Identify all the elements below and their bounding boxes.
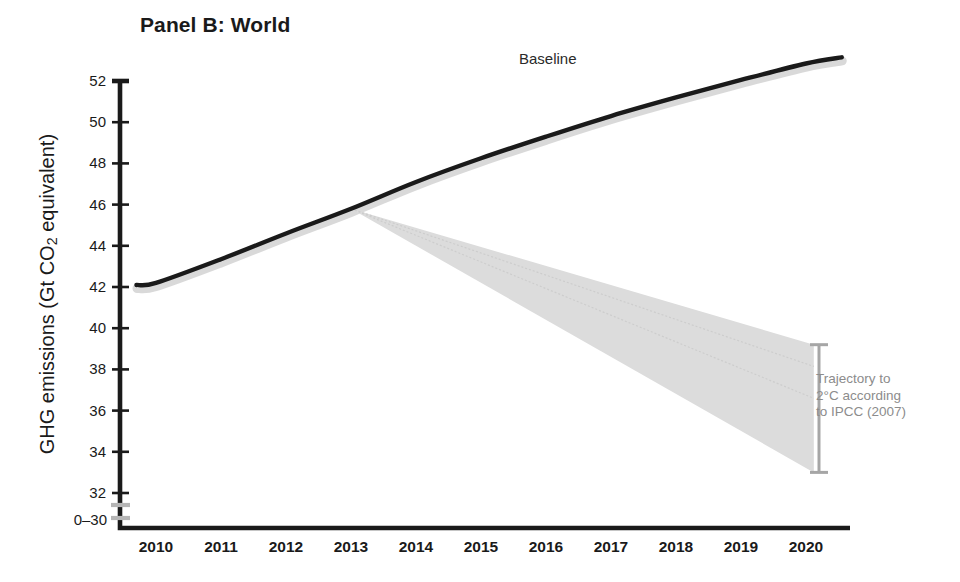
y-tick-label-40: 40 [62,319,106,336]
x-tick-label-2017: 2017 [576,538,646,556]
x-tick-label-2013: 2013 [316,538,386,556]
wedge-seam-upper [351,209,814,367]
y-tick-label-50: 50 [62,113,106,130]
trajectory-annotation-line-1: Trajectory to [816,371,906,388]
x-tick-label-2011: 2011 [186,538,256,556]
y-tick-label-32: 32 [62,484,106,501]
y-axis-break-label: 0–30 [55,511,107,528]
x-tick-label-2020: 2020 [771,538,841,556]
x-tick-label-2012: 2012 [251,538,321,556]
axes-group [111,81,850,528]
chart-plot-area [0,0,960,582]
y-tick-label-34: 34 [62,443,106,460]
y-tick-label-46: 46 [62,196,106,213]
x-tick-label-2010: 2010 [121,538,191,556]
x-tick-label-2018: 2018 [641,538,711,556]
x-tick-label-2015: 2015 [446,538,516,556]
x-tick-label-2014: 2014 [381,538,451,556]
trajectory-annotation: Trajectory to 2°C according to IPCC (200… [816,371,906,421]
y-tick-label-38: 38 [62,360,106,377]
x-tick-label-2019: 2019 [706,538,776,556]
y-tick-label-52: 52 [62,72,106,89]
chart-figure: Panel B: World GHG emissions (Gt CO2 equ… [0,0,960,582]
trajectory-annotation-line-3: to IPCC (2007) [816,404,906,421]
trajectory-annotation-line-2: 2°C according [816,388,906,405]
trajectory-wedge [351,209,814,473]
y-tick-label-48: 48 [62,154,106,171]
y-tick-label-42: 42 [62,278,106,295]
baseline-series-label: Baseline [519,50,577,67]
axis-lines [120,81,850,528]
y-tick-label-44: 44 [62,237,106,254]
y-tick-label-36: 36 [62,402,106,419]
x-tick-label-2016: 2016 [511,538,581,556]
